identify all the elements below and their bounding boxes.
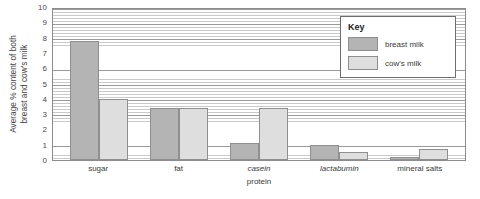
x-axis-label-sugar: sugar	[69, 163, 127, 177]
x-axis-label-lactabumin: lactabumin	[310, 163, 368, 177]
y-axis-label-line-1: Average % content of both	[8, 35, 19, 133]
bar-sugar-cow-milk	[99, 99, 128, 160]
legend-label-cow-milk: cow's milk	[385, 59, 421, 68]
x-axis-label-fat: fat	[150, 163, 208, 177]
y-axis-tick-0: 0	[43, 157, 47, 165]
bar-group-sugar	[70, 9, 128, 160]
y-axis-tick-8: 8	[43, 35, 47, 43]
y-axis-label-line-2: breast and cow's milk	[19, 35, 30, 133]
legend-swatch-breast-milk	[348, 37, 378, 51]
bar-fat-cow-milk	[179, 108, 208, 160]
legend-swatch-cow-milk	[348, 56, 378, 70]
legend: Key breast milk cow's milk	[340, 16, 456, 78]
bar-lactabumin-breast-milk	[310, 145, 339, 160]
y-axis-tick-6: 6	[43, 65, 47, 73]
y-axis-tick-5: 5	[43, 81, 47, 89]
y-axis-ticks: 109876543210	[34, 8, 50, 161]
y-axis-tick-10: 10	[38, 4, 47, 12]
bar-fat-breast-milk	[150, 108, 179, 160]
y-axis-label: Average % content of both breast and cow…	[2, 0, 36, 168]
y-axis-tick-2: 2	[43, 126, 47, 134]
y-axis-tick-1: 1	[43, 142, 47, 150]
bar-chart: Average % content of both breast and cow…	[0, 0, 480, 199]
x-axis-label: protein	[52, 177, 466, 186]
bar-mineral-salts-breast-milk	[390, 157, 419, 160]
bar-group-casein	[230, 9, 288, 160]
legend-item-cow-milk: cow's milk	[348, 56, 448, 70]
bar-casein-breast-milk	[230, 143, 259, 160]
x-axis-label-casein: casein	[230, 163, 288, 177]
bar-lactabumin-cow-milk	[339, 152, 368, 160]
bar-sugar-breast-milk	[70, 41, 99, 160]
legend-label-breast-milk: breast milk	[385, 40, 424, 49]
legend-title: Key	[348, 22, 448, 32]
y-axis-tick-4: 4	[43, 96, 47, 104]
x-axis-category-labels: sugarfatcaseinlactabuminmineral salts	[52, 163, 466, 177]
x-axis-label-mineral-salts: mineral salts	[391, 163, 449, 177]
y-axis-tick-7: 7	[43, 50, 47, 58]
y-axis-tick-9: 9	[43, 19, 47, 27]
y-axis-tick-3: 3	[43, 111, 47, 119]
bar-group-fat	[150, 9, 208, 160]
bar-casein-cow-milk	[259, 108, 288, 160]
bar-mineral-salts-cow-milk	[419, 149, 448, 160]
legend-item-breast-milk: breast milk	[348, 37, 448, 51]
